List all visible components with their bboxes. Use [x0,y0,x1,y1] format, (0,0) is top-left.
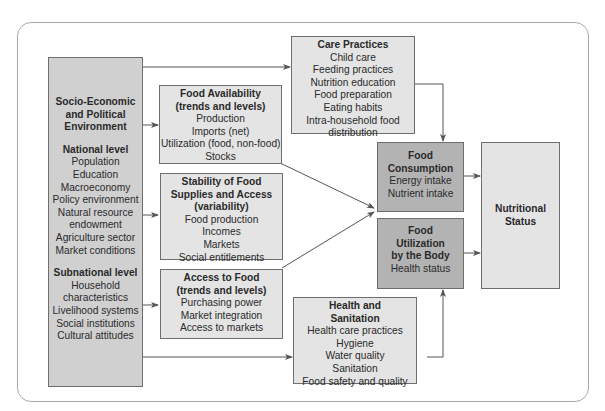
list-item: Cultural attitudes [50,330,141,343]
box-title-line: Food Availability [161,88,280,101]
box-title-line: Health and [295,300,415,313]
list-item: Energy intake [379,175,462,188]
list-item: Purchasing power [162,297,281,310]
socio-title-line: and Political [50,109,141,122]
stability-box: Stability of Food Supplies and Access (v… [160,173,283,260]
health-sanitation-box: Health and Sanitation Health care practi… [293,297,417,384]
care-practices-box: Care Practices Child care Feeding practi… [291,36,415,134]
subnational-level-heading: Subnational level [50,267,141,280]
box-title-line: Stability of Food [162,176,281,189]
national-level-heading: National level [50,144,141,157]
box-title-line: (variability) [162,201,281,214]
arrow-care-to-consumption [414,84,443,141]
list-item: Water quality [295,350,415,363]
box-title-line: Food [379,225,462,238]
arrow-access-to-consumption [282,212,374,268]
nutritional-status-box: Nutritional Status [481,142,560,289]
list-item: Social institutions [50,318,141,331]
list-item: Agriculture sector [50,232,141,245]
list-item: Incomes [162,226,281,239]
box-title-line: Nutritional [483,203,558,216]
list-item: Household [50,280,141,293]
box-title-line: Food [379,150,462,163]
list-item: Imports (net) [161,126,280,139]
arrow-health-to-utilization [427,290,443,357]
list-item: Markets [162,239,281,252]
box-title-line: Sanitation [295,313,415,326]
box-title-line: Consumption [379,163,462,176]
list-item: Access to markets [162,322,281,335]
food-utilization-box: Food Utilization by the Body Health stat… [377,218,464,289]
box-title-line: Supplies and Access [162,189,281,202]
list-item: Eating habits [293,102,413,115]
box-title-line: Access to Food [162,272,281,285]
list-item: Policy environment [50,194,141,207]
list-item: Natural resource [50,207,141,220]
list-item: Education [50,169,141,182]
socio-economic-box: Socio-Economic and Political Environment… [48,57,143,387]
box-title-line: by the Body [379,250,462,263]
box-title-line: (trends and levels) [162,285,281,298]
list-item: endowment [50,219,141,232]
list-item: Utilization (food, non-food) [161,138,280,151]
access-to-food-box: Access to Food (trends and levels) Purch… [160,269,283,339]
list-item: Population [50,156,141,169]
list-item: Livelihood systems [50,305,141,318]
list-item: Production [161,113,280,126]
list-item: Food safety and quality [295,376,415,389]
list-item: Sanitation [295,363,415,376]
list-item: Nutrition education [293,77,413,90]
socio-title-line: Socio-Economic [50,96,141,109]
list-item: Child care [293,52,413,65]
food-consumption-box: Food Consumption Energy intake Nutrient … [377,142,464,212]
list-item: Intra-household food [293,115,413,128]
list-item: distribution [293,127,413,140]
box-title-line: Status [483,216,558,229]
list-item: Health care practices [295,325,415,338]
list-item: Macroeconomy [50,182,141,195]
list-item: Market conditions [50,245,141,258]
list-item: Nutrient intake [379,188,462,201]
list-item: Market integration [162,310,281,323]
list-item: Feeding practices [293,64,413,77]
arrow-availability-to-consumption [278,162,374,208]
socio-title-line: Environment [50,121,141,134]
list-item: Social entitlements [162,252,281,265]
list-item: characteristics [50,292,141,305]
list-item: Health status [379,263,462,276]
box-title-line: (trends and levels) [161,101,280,114]
box-title-line: Utilization [379,238,462,251]
food-availability-box: Food Availability (trends and levels) Pr… [159,85,282,164]
list-item: Stocks [161,151,280,164]
box-title-line: Care Practices [293,39,413,52]
list-item: Food preparation [293,89,413,102]
list-item: Food production [162,214,281,227]
list-item: Hygiene [295,338,415,351]
